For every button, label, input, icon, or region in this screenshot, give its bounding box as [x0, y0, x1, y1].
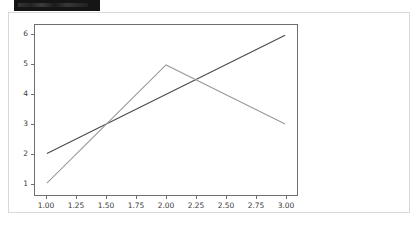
x-tick-label: 1.00	[38, 202, 55, 210]
x-tick-mark	[166, 196, 167, 199]
x-tick-mark	[286, 196, 287, 199]
line-series-1	[47, 35, 285, 153]
x-tick-mark	[256, 196, 257, 199]
y-tick-mark	[31, 34, 34, 35]
x-tick-mark	[226, 196, 227, 199]
y-tick-label: 4	[16, 91, 28, 99]
screen-root: 1.001.251.501.752.002.252.502.753.001234…	[0, 0, 416, 233]
x-tick-mark	[106, 196, 107, 199]
x-tick-label: 2.75	[248, 202, 265, 210]
plot-lines	[35, 25, 297, 195]
y-tick-mark	[31, 184, 34, 185]
x-tick-label: 1.75	[128, 202, 145, 210]
x-tick-label: 1.50	[98, 202, 115, 210]
y-tick-label: 5	[16, 61, 28, 69]
x-tick-label: 1.25	[68, 202, 85, 210]
y-tick-label: 6	[16, 31, 28, 39]
x-tick-mark	[136, 196, 137, 199]
toolbar-content-glyphs	[18, 3, 88, 7]
y-tick-label: 3	[16, 120, 28, 128]
cropped-toolbar-strip[interactable]	[14, 0, 100, 11]
chart-card: 1.001.251.501.752.002.252.502.753.001234…	[8, 12, 410, 213]
plot-axes[interactable]	[34, 24, 298, 196]
x-tick-label: 2.50	[218, 202, 235, 210]
y-tick-label: 2	[16, 150, 28, 158]
line-series-2	[47, 65, 285, 183]
x-tick-label: 3.00	[278, 202, 295, 210]
x-tick-mark	[76, 196, 77, 199]
x-tick-mark	[46, 196, 47, 199]
y-tick-mark	[31, 154, 34, 155]
y-tick-mark	[31, 64, 34, 65]
y-tick-label: 1	[16, 180, 28, 188]
x-tick-label: 2.25	[188, 202, 205, 210]
x-tick-mark	[196, 196, 197, 199]
matplotlib-figure: 1.001.251.501.752.002.252.502.753.001234…	[9, 13, 339, 212]
y-tick-mark	[31, 94, 34, 95]
x-tick-label: 2.00	[158, 202, 175, 210]
y-tick-mark	[31, 124, 34, 125]
